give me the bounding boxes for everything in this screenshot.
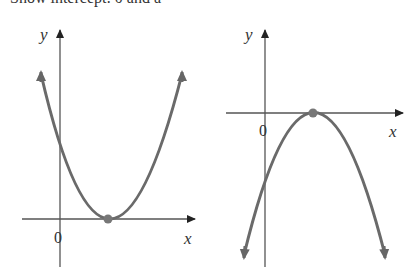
left-x-label: x [183, 229, 192, 248]
right-y-label: y [243, 25, 253, 44]
left-graph: y x 0 [22, 25, 195, 267]
left-vertex-dot [104, 215, 113, 224]
left-curve-down-arrow-icon [244, 246, 245, 258]
left-parabola-curve [41, 74, 182, 219]
right-graph: y x 0 [226, 25, 403, 267]
left-origin-label: 0 [54, 229, 62, 246]
right-x-label: x [388, 122, 397, 141]
left-y-label: y [38, 25, 48, 44]
right-origin-label: 0 [259, 122, 267, 139]
graphs-figure: y x 0 y x 0 [0, 0, 413, 279]
right-vertex-dot [309, 109, 318, 118]
right-curve-down-arrow-icon [384, 246, 385, 258]
